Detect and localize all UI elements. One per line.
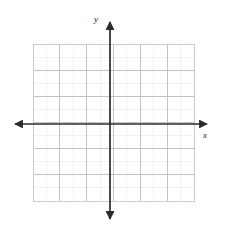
y-axis-label: y — [94, 15, 98, 24]
x-axis-label: x — [203, 131, 207, 140]
coordinate-plane-svg — [0, 0, 227, 236]
coordinate-grid-figure: y x — [0, 0, 227, 236]
